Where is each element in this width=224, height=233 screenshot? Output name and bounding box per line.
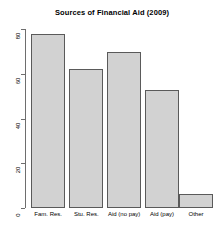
y-axis-tick: [21, 29, 25, 30]
x-axis-label: Aid (pay): [145, 211, 179, 217]
y-axis-tick-label: 20: [15, 162, 21, 178]
plot-area: 020406080 Fam. Res.Stu. Res.Aid (no pay)…: [0, 0, 224, 233]
bar: [69, 69, 103, 207]
bar: [145, 90, 179, 208]
bar: [107, 52, 141, 208]
y-axis-tick-label: 60: [15, 73, 21, 89]
x-axis-label: Stu. Res.: [69, 211, 103, 217]
y-axis-tick-label: 0: [15, 207, 21, 223]
bar-chart: Sources of Financial Aid (2009) 02040608…: [0, 0, 224, 233]
y-axis-tick: [21, 163, 25, 164]
y-axis-line: [25, 29, 26, 208]
y-axis-tick-label: 80: [15, 28, 21, 44]
y-axis-tick: [21, 208, 25, 209]
y-axis-tick: [21, 119, 25, 120]
y-axis-tick: [21, 74, 25, 75]
bar: [179, 194, 212, 207]
y-axis-tick-label: 40: [15, 118, 21, 134]
x-axis-label: Fam. Res.: [31, 211, 65, 217]
bar: [31, 34, 65, 208]
x-axis-label: Other: [179, 211, 212, 217]
x-axis-label: Aid (no pay): [107, 211, 141, 217]
